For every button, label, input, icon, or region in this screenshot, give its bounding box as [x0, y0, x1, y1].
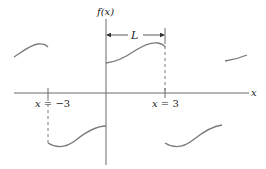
- curve-segment-right: [165, 125, 222, 146]
- curve-segment-center: [106, 43, 165, 63]
- y-axis-label: f(x): [96, 6, 114, 17]
- tick-label-3: x = 3: [152, 98, 179, 109]
- tick-label-neg3: x = −3: [35, 98, 70, 109]
- curve-segment-far-right: [225, 55, 247, 61]
- curve-segment-far-left: [14, 44, 48, 57]
- period-label: L: [130, 29, 138, 42]
- x-axis-label: x: [251, 87, 257, 98]
- curve-segment-left: [48, 126, 106, 146]
- periodic-function-diagram: f(x) x x = −3 x = 3 L: [0, 0, 266, 169]
